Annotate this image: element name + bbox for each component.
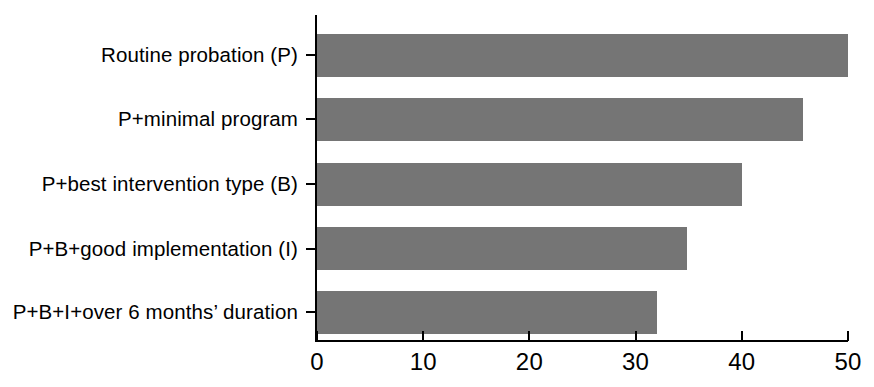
bar-0: [317, 34, 848, 77]
category-label-4: P+B+I+over 6 months’ duration: [13, 300, 298, 324]
value-tick-2: [528, 331, 530, 341]
bar-chart: Routine probation (P) P+minimal program …: [0, 0, 874, 387]
value-tick-0: [316, 331, 318, 341]
bar-2: [317, 163, 742, 206]
category-tick-4: [306, 311, 316, 313]
category-label-0: Routine probation (P): [101, 43, 298, 67]
value-tick-label-0: 0: [310, 348, 324, 376]
value-tick-5: [847, 331, 849, 341]
bar-3: [317, 227, 687, 270]
category-tick-0: [306, 54, 316, 56]
value-tick-3: [635, 331, 637, 341]
value-tick-label-4: 40: [728, 348, 755, 376]
value-tick-label-1: 10: [410, 348, 437, 376]
value-tick-4: [741, 331, 743, 341]
category-label-3: P+B+good implementation (I): [29, 237, 298, 261]
value-tick-label-5: 50: [834, 348, 861, 376]
category-tick-2: [306, 183, 316, 185]
category-label-2: P+best intervention type (B): [42, 172, 298, 196]
value-tick-label-2: 20: [516, 348, 543, 376]
value-tick-1: [422, 331, 424, 341]
category-tick-1: [306, 118, 316, 120]
bar-4: [317, 291, 657, 334]
value-tick-label-3: 30: [622, 348, 649, 376]
category-label-1: P+minimal program: [118, 107, 298, 131]
category-tick-3: [306, 248, 316, 250]
value-axis-line: [315, 340, 848, 342]
bar-1: [317, 98, 803, 141]
plot-area: Routine probation (P) P+minimal program …: [0, 0, 874, 387]
